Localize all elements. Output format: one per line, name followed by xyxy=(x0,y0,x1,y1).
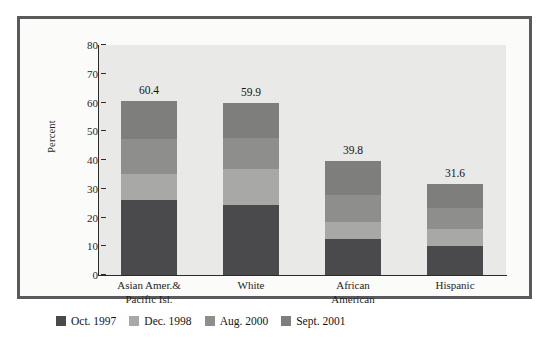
bar-stack[interactable] xyxy=(223,103,279,275)
category-label-line: Pacific Isl. xyxy=(90,293,208,307)
y-axis-tick-label: 40 xyxy=(87,154,98,166)
y-axis-tick: 40 xyxy=(66,154,106,166)
bar-stack[interactable] xyxy=(121,101,177,275)
x-axis-category-label: AfricanAmerican xyxy=(294,279,412,306)
bar-group: 59.9 xyxy=(223,45,279,275)
x-axis-category-label: White xyxy=(192,279,310,293)
bar-value-label: 59.9 xyxy=(209,86,293,98)
y-axis-tick-label: 20 xyxy=(87,212,98,224)
legend-label: Aug. 2000 xyxy=(220,315,269,327)
y-axis-title: Percent xyxy=(46,102,57,172)
bar-segment[interactable] xyxy=(121,200,177,275)
y-axis-tick-mark xyxy=(101,274,106,275)
y-axis-tick: 50 xyxy=(66,125,106,137)
y-axis-tick: 60 xyxy=(66,97,106,109)
bar-value-label: 60.4 xyxy=(107,84,191,96)
bar-segment[interactable] xyxy=(121,174,177,200)
category-label-line: American xyxy=(294,293,412,307)
category-label-line: African xyxy=(294,279,412,293)
legend-label: Dec. 1998 xyxy=(144,315,191,327)
bar-segment[interactable] xyxy=(325,239,381,275)
x-axis-line xyxy=(98,275,507,276)
bar-segment[interactable] xyxy=(325,161,381,195)
y-axis-tick-label: 60 xyxy=(87,97,98,109)
legend-label: Sept. 2001 xyxy=(296,315,345,327)
bar-segment[interactable] xyxy=(427,208,483,229)
bar-segment[interactable] xyxy=(325,195,381,222)
y-axis-tick: 70 xyxy=(66,68,106,80)
y-axis-tick-label: 50 xyxy=(87,125,98,137)
y-axis-tick-label: 70 xyxy=(87,68,98,80)
category-label-line: Asian Amer.& xyxy=(90,279,208,293)
bar-segment[interactable] xyxy=(427,246,483,275)
y-axis-tick-label: 10 xyxy=(87,240,98,252)
y-axis-tick-label: 30 xyxy=(87,183,98,195)
bar-segment[interactable] xyxy=(121,139,177,174)
bar-segment[interactable] xyxy=(223,103,279,138)
y-axis-tick: 30 xyxy=(66,183,106,195)
legend-swatch-icon xyxy=(281,316,291,326)
y-axis-tick-mark xyxy=(101,217,106,218)
chart-figure-frame: Percent 01020304050607080 60.459.939.831… xyxy=(17,16,532,299)
bar-group: 39.8 xyxy=(325,45,381,275)
y-axis-tick-mark xyxy=(101,130,106,131)
stacked-bar-chart: Percent 01020304050607080 60.459.939.831… xyxy=(20,19,529,296)
category-label-line: White xyxy=(192,279,310,293)
category-label-line: Hispanic xyxy=(396,279,514,293)
chart-legend: Oct. 1997Dec. 1998Aug. 2000Sept. 2001 xyxy=(56,314,358,328)
y-axis-tick: 80 xyxy=(66,39,106,51)
legend-swatch-icon xyxy=(129,316,139,326)
bar-segment[interactable] xyxy=(223,205,279,275)
x-axis-category-label: Hispanic xyxy=(396,279,514,293)
y-axis-tick-mark xyxy=(101,245,106,246)
bar-group: 60.4 xyxy=(121,45,177,275)
bar-segment[interactable] xyxy=(325,222,381,240)
y-axis-tick: 10 xyxy=(66,240,106,252)
legend-swatch-icon xyxy=(205,316,215,326)
y-axis-tick-label: 80 xyxy=(87,39,98,51)
bar-segment[interactable] xyxy=(427,184,483,208)
y-axis-tick-mark xyxy=(101,73,106,74)
y-axis-tick-mark xyxy=(101,102,106,103)
bar-stack[interactable] xyxy=(427,184,483,275)
legend-swatch-icon xyxy=(56,316,66,326)
y-axis-tick: 20 xyxy=(66,212,106,224)
bar-value-label: 39.8 xyxy=(311,144,395,156)
legend-item[interactable]: Aug. 2000 xyxy=(205,315,269,327)
y-axis-tick-mark xyxy=(101,44,106,45)
bar-segment[interactable] xyxy=(223,138,279,168)
legend-item[interactable]: Dec. 1998 xyxy=(129,315,191,327)
bar-segment[interactable] xyxy=(121,101,177,139)
y-axis-tick-mark xyxy=(101,188,106,189)
y-axis-tick-mark xyxy=(101,159,106,160)
bar-group: 31.6 xyxy=(427,45,483,275)
legend-item[interactable]: Oct. 1997 xyxy=(56,315,116,327)
bar-stack[interactable] xyxy=(325,161,381,275)
bar-segment[interactable] xyxy=(223,169,279,205)
bar-segment[interactable] xyxy=(427,229,483,247)
x-axis-category-label: Asian Amer.&Pacific Isl. xyxy=(90,279,208,306)
legend-label: Oct. 1997 xyxy=(71,315,116,327)
legend-item[interactable]: Sept. 2001 xyxy=(281,315,345,327)
bar-value-label: 31.6 xyxy=(413,167,497,179)
